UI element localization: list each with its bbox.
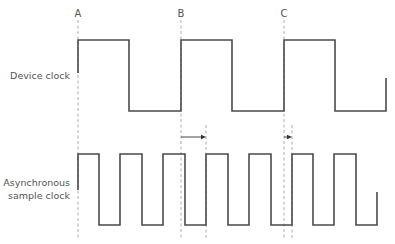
- delay-arrows: [181, 135, 292, 139]
- signal-labels: Device clockAsynchronoussample clock: [3, 70, 70, 202]
- marker-labels: ABC: [75, 8, 288, 19]
- sample-clock-waveform: [78, 154, 377, 225]
- sample-clock-label: sample clock: [8, 190, 70, 201]
- signal-waveforms: [78, 40, 386, 225]
- marker-label-a: A: [75, 8, 82, 19]
- arrowhead-icon: [201, 135, 206, 139]
- device-clock-waveform: [78, 40, 386, 111]
- marker-label-b: B: [178, 8, 185, 19]
- device-clock-label: Device clock: [10, 70, 70, 81]
- sample-clock-label: Asynchronous: [3, 177, 70, 188]
- timing-diagram: ABC Device clockAsynchronoussample clock: [0, 0, 395, 244]
- marker-label-c: C: [281, 8, 288, 19]
- arrowhead-icon: [287, 135, 292, 139]
